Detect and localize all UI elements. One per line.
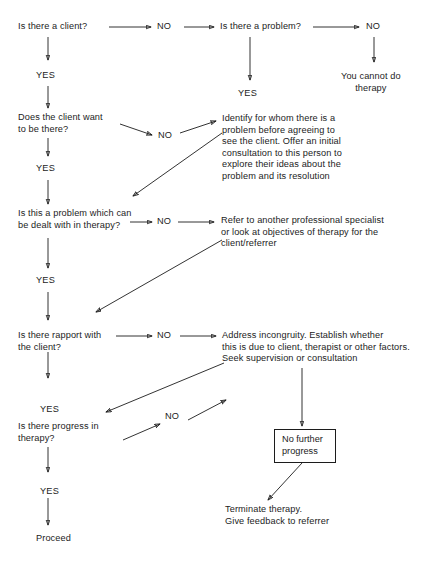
node-identify-for-whom: Identify for whom there is a problem bef… [222,113,342,183]
edge-label-no-1: NO [157,21,171,33]
edge-nofurther-to-terminate [268,463,302,500]
edge-want-to-no [120,124,152,135]
edge-label-no-4: NO [157,216,171,228]
edge-address-return [106,363,224,412]
node-terminate-therapy: Terminate therapy. Give feedback to refe… [225,504,329,527]
node-is-this-a-problem-dealt-with: Is this a problem which can be dealt wit… [18,208,132,231]
node-does-client-want-to-be-there: Does the client want to be there? [18,112,103,135]
edge-label-no-3: NO [158,130,172,142]
node-address-incongruity: Address incongruity. Establish whether t… [222,330,410,365]
edge-label-yes-1: YES [36,70,55,82]
node-is-there-progress: Is there progress in therapy? [18,421,99,444]
edge-label-no-6: NO [165,411,179,423]
edge-identify-return [133,133,222,196]
edge-label-no-5: NO [157,330,171,342]
edge-refer-return [96,240,222,312]
edge-progress-to-no [123,424,160,440]
edge-label-yes-3: YES [36,163,55,175]
flowchart-canvas: Is there a client? NO Is there a problem… [0,0,443,564]
node-proceed: Proceed [36,533,71,545]
edge-label-yes-6: YES [40,486,59,498]
node-refer-to-another-professional: Refer to another professional specialist… [221,215,384,250]
node-no-further-progress: No further progress [274,429,336,463]
edge-label-yes-5: YES [40,404,59,416]
edge-label-no-2: NO [366,21,380,33]
edge-no6-up [188,400,226,420]
edge-no3-to-identify [180,121,216,133]
node-is-there-a-client: Is there a client? [18,21,87,33]
edge-label-yes-4: YES [36,275,55,287]
node-is-there-rapport: Is there rapport with the client? [18,330,101,353]
edge-label-yes-2: YES [238,88,257,100]
node-you-cannot-do-therapy: You cannot do therapy [341,71,401,94]
node-is-there-a-problem: Is there a problem? [220,21,301,33]
